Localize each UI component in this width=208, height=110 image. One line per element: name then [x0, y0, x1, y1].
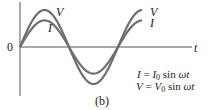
v-peak-label: V [56, 6, 63, 18]
t-axis-label: t [194, 42, 197, 54]
origin-label: 0 [7, 41, 13, 53]
voltage-equation: V = V0 sin ωt [136, 80, 194, 96]
i-peak-label: I [48, 22, 52, 34]
ac-phase-diagram: 0 t V I V I I = I0 sin ωt V = V0 sin ωt … [0, 0, 208, 110]
figure-caption: (b) [95, 95, 109, 107]
i-end-label: I [150, 17, 154, 29]
